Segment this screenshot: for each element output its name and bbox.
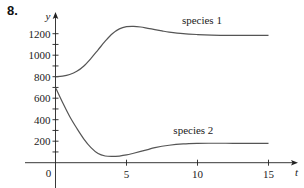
- ticks: [53, 34, 269, 166]
- x-tick-label: 10: [192, 168, 204, 180]
- y-tick-label: 800: [34, 71, 51, 83]
- x-tick-label: 15: [263, 168, 275, 180]
- y-axis-label: y: [45, 10, 51, 22]
- series-label-2: species 2: [173, 124, 213, 136]
- tick-labels: 02004006008001000120051015: [29, 28, 275, 180]
- y-tick-label: 200: [34, 135, 51, 147]
- series-line-2: [56, 87, 269, 156]
- axes: ty: [25, 10, 299, 188]
- origin-label: 0: [46, 167, 52, 179]
- y-tick-label: 1200: [29, 28, 52, 40]
- series-labels: species 1species 2: [173, 14, 222, 136]
- series-line-1: [56, 26, 269, 76]
- series-label-1: species 1: [182, 14, 222, 26]
- series-group: [56, 26, 269, 156]
- y-tick-label: 400: [34, 114, 51, 126]
- x-tick-label: 5: [124, 168, 130, 180]
- line-chart: ty 02004006008001000120051015 species 1s…: [0, 0, 304, 188]
- y-tick-label: 600: [34, 92, 51, 104]
- y-tick-label: 1000: [29, 49, 52, 61]
- x-axis-label: t: [295, 166, 299, 178]
